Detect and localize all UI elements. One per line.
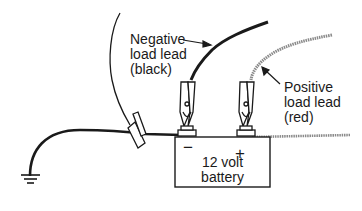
positive-label-arrow-icon bbox=[262, 67, 280, 84]
inline-clip-icon bbox=[128, 112, 146, 148]
sense-wire bbox=[110, 13, 130, 125]
negative-label-arrow-icon bbox=[183, 40, 211, 47]
ground-wire bbox=[30, 130, 182, 176]
jumper-diagram: Negative load lead (black) Positive load… bbox=[0, 0, 362, 211]
positive-lead-label: Positive load lead (red) bbox=[284, 80, 341, 125]
negative-clamp-icon bbox=[178, 82, 196, 136]
negative-lead-label: Negative load lead (black) bbox=[130, 32, 187, 77]
battery-label: 12 volt battery bbox=[175, 155, 270, 185]
ground-icon bbox=[21, 175, 40, 183]
negative-lead-wire bbox=[191, 22, 268, 80]
battery-negative-terminal-sign: − bbox=[183, 139, 193, 156]
positive-clamp-icon bbox=[237, 82, 255, 136]
